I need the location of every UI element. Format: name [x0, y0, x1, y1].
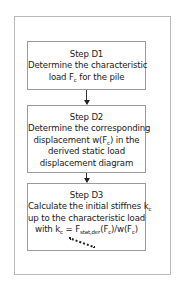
- step-d3-line-1: Calculate the initial stiffnes kc: [28, 201, 145, 212]
- step-d3-title: Step D3: [28, 190, 145, 201]
- step-d2-line-2: displacement w(Fc) in the: [28, 135, 145, 146]
- step-d2-line-1: Determine the corresponding: [28, 123, 145, 134]
- step-d1-line-1: Determine the characteristic: [28, 60, 145, 71]
- text-fragment: (F: [100, 224, 108, 234]
- text-fragment: with k: [35, 224, 60, 234]
- step-d2-box: Step D2 Determine the corresponding disp…: [27, 105, 146, 173]
- text-fragment: load F: [49, 72, 74, 82]
- text-fragment: for the pile: [77, 72, 125, 82]
- text-fragment: ): [135, 224, 138, 234]
- step-d3-line-3: with kc = Fstat,der(Fc)/w(Fc): [28, 224, 145, 235]
- step-d1-box: Step D1 Determine the characteristic loa…: [27, 41, 146, 90]
- arrow-down-icon: [86, 90, 87, 104]
- text-fragment: )/w(F: [111, 224, 132, 234]
- arrow-down-icon: [86, 173, 87, 182]
- text-fragment: = F: [63, 224, 80, 234]
- step-d1-title: Step D1: [28, 49, 145, 60]
- step-d1-line-2: load Fc for the pile: [28, 72, 145, 83]
- text-fragment: displacement w(F: [33, 135, 107, 145]
- step-d2-line-3: derived static load: [28, 146, 145, 157]
- subscript: stat,der: [80, 229, 100, 235]
- text-fragment: ) in the: [110, 135, 140, 145]
- step-d3-line-2: up to the characteristic load: [28, 213, 145, 224]
- step-d3-box: Step D3 Calculate the initial stiffnes k…: [27, 183, 146, 251]
- step-d2-title: Step D2: [28, 112, 145, 123]
- text-fragment: Calculate the initial stiffnes k: [28, 201, 148, 211]
- step-d2-line-4: displacement diagram: [28, 158, 145, 169]
- subscript: c: [148, 206, 151, 212]
